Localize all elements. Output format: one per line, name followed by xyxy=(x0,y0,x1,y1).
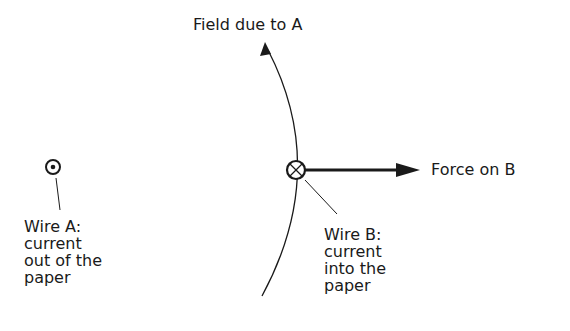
wire-b-leader xyxy=(305,180,337,214)
force-label: Force on B xyxy=(431,161,515,179)
wire-a-label: Wire A: current out of the paper xyxy=(24,218,102,286)
force-arrowhead-icon xyxy=(396,163,420,177)
wire-b-cross-icon xyxy=(287,161,305,179)
field-label: Field due to A xyxy=(193,16,302,34)
wire-a-dot-icon xyxy=(46,160,60,174)
field-arrowhead-icon xyxy=(260,42,271,56)
wire-a-leader xyxy=(56,178,60,210)
wire-b-label: Wire B: current into the paper xyxy=(324,226,386,294)
